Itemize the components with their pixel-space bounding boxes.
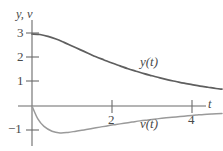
curve-label-v: v(t) bbox=[140, 117, 158, 130]
curve-label-y: y(t) bbox=[140, 55, 158, 68]
y-tick-label-1: 1 bbox=[17, 74, 24, 87]
x-tick-label-2: 2 bbox=[108, 113, 115, 126]
y-tick-label-minus-1: −1 bbox=[8, 122, 22, 135]
x-tick-label-4: 4 bbox=[188, 113, 195, 126]
y-axis-title: y, v bbox=[16, 8, 33, 21]
plot-area bbox=[0, 0, 223, 151]
y-tick-label-2: 2 bbox=[17, 50, 24, 63]
x-axis-title: t bbox=[208, 98, 211, 111]
chart-figure: y, v 3 2 1 −1 2 4 t y(t) v(t) bbox=[0, 0, 223, 151]
y-tick-label-3: 3 bbox=[17, 26, 24, 39]
curve-y-of-t bbox=[32, 34, 222, 89]
